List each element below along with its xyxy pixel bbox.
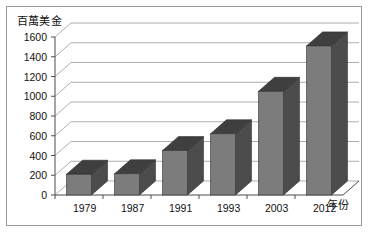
x-tick-label: 1993 — [205, 202, 253, 214]
x-tick-label: 1979 — [61, 202, 109, 214]
x-tick-label: 2003 — [253, 202, 301, 214]
y-tick-label: 800 — [5, 110, 47, 122]
y-tick-label: 1000 — [5, 90, 47, 102]
y-tick-label: 1200 — [5, 71, 47, 83]
chart-plot-area — [7, 7, 363, 227]
y-tick-label: 600 — [5, 130, 47, 142]
bar-series — [67, 32, 348, 195]
y-tick-label: 1600 — [5, 31, 47, 43]
x-tick-label: 1987 — [109, 202, 157, 214]
y-tick-label: 400 — [5, 150, 47, 162]
x-tick-label: 1991 — [157, 202, 205, 214]
y-tick-label: 0 — [5, 189, 47, 201]
x-tick-label: 2012 — [301, 202, 349, 214]
chart-frame: 百萬美金 年份 02004006008001000120014001600 19… — [6, 6, 362, 226]
y-tick-label: 200 — [5, 169, 47, 181]
y-tick-label: 1400 — [5, 51, 47, 63]
